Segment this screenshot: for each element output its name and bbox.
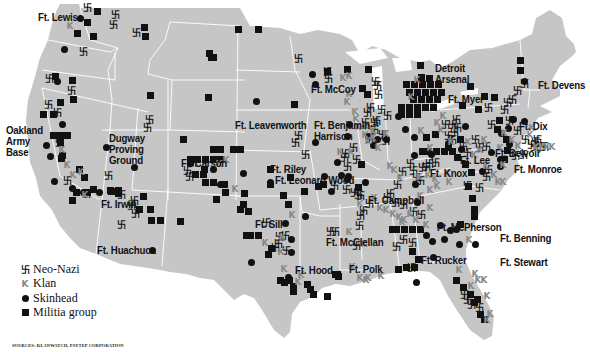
base-label: Ft. Stewart xyxy=(500,257,548,268)
militia-square-icon xyxy=(438,89,445,96)
militia-square-icon xyxy=(422,104,429,111)
militia-square-icon xyxy=(393,226,400,233)
neo-nazi-swastika-icon: 卐 xyxy=(294,55,303,64)
militia-square-icon xyxy=(210,146,217,153)
klan-k-icon: K xyxy=(78,168,85,177)
skinhead-circle-icon xyxy=(59,121,66,128)
base-label: Ft. Monroe xyxy=(514,164,562,175)
neo-nazi-swastika-icon: 卐 xyxy=(505,117,514,126)
base-label: Ft. McClellan xyxy=(326,237,383,248)
skinhead-circle-icon xyxy=(240,170,247,177)
neo-nazi-swastika-icon: 卐 xyxy=(406,160,415,169)
neo-nazi-swastika-icon: 卐 xyxy=(131,210,140,219)
neo-nazi-swastika-icon: 卐 xyxy=(374,91,383,100)
neo-nazi-swastika-icon: 卐 xyxy=(508,96,517,105)
base-label: Ft. Dix xyxy=(519,121,547,132)
base-label: Ft. Irwin xyxy=(101,199,137,210)
neo-nazi-swastika-icon: 卐 xyxy=(109,21,118,30)
klan-k-icon: K xyxy=(427,186,434,195)
militia-square-icon xyxy=(471,213,478,220)
klan-k-icon: K xyxy=(427,204,434,213)
base-label: Ft. McCoy xyxy=(311,84,356,95)
neo-nazi-swastika-icon: 卐 xyxy=(44,101,53,110)
militia-square-icon xyxy=(364,91,371,98)
legend-label: Klan xyxy=(33,276,56,291)
skinhead-circle-icon xyxy=(61,46,68,53)
militia-square-icon xyxy=(427,81,434,88)
klan-k-icon: K xyxy=(413,216,420,225)
neo-nazi-swastika-icon: 卐 xyxy=(392,243,401,252)
klan-k-icon: K xyxy=(397,174,404,183)
base-label: Detroit Arsenal xyxy=(435,63,469,85)
legend-label: Neo-Nazi xyxy=(33,262,80,277)
militia-square-icon xyxy=(255,26,262,33)
skinhead-circle-icon xyxy=(429,238,436,245)
militia-square-icon xyxy=(142,33,149,40)
neo-nazi-swastika-icon: 卐 xyxy=(355,222,364,231)
skinhead-circle-icon xyxy=(47,153,54,160)
militia-square-icon xyxy=(334,271,341,278)
base-label: Ft. Huachuca xyxy=(97,245,156,256)
klan-k-icon: K xyxy=(481,276,488,285)
base-label: Ft. Belvoir xyxy=(495,148,540,159)
klan-k-icon: K xyxy=(67,22,74,31)
skinhead-circle-icon xyxy=(253,98,260,105)
militia-square-icon xyxy=(202,179,209,186)
militia-square-icon xyxy=(324,293,331,300)
militia-square-icon xyxy=(469,195,476,202)
militia-square-icon xyxy=(108,188,115,195)
klan-k-icon: K xyxy=(448,138,455,147)
neo-nazi-swastika-icon: 卐 xyxy=(291,139,300,148)
klan-k-icon: K xyxy=(446,178,453,187)
militia-square-icon xyxy=(237,206,244,213)
militia-square-icon xyxy=(140,193,147,200)
klan-k-icon: K xyxy=(456,266,463,275)
militia-square-icon xyxy=(471,206,478,213)
neo-nazi-swastika-icon: 卐 xyxy=(482,173,491,182)
swastika-icon: 卐 xyxy=(20,263,30,276)
militia-square-icon xyxy=(395,266,402,273)
skinhead-circle-icon xyxy=(54,78,61,85)
klan-k-icon: K xyxy=(344,98,351,107)
neo-nazi-swastika-icon: 卐 xyxy=(372,117,381,126)
base-label: Ft. Devens xyxy=(538,80,585,91)
militia-square-icon xyxy=(434,96,441,103)
base-label: Oakland Army Base xyxy=(6,125,43,158)
klan-k-icon: K xyxy=(278,248,285,257)
neo-nazi-swastika-icon: 卐 xyxy=(475,184,484,193)
klan-k-icon: K xyxy=(289,211,296,220)
militia-square-icon xyxy=(148,217,155,224)
militia-square-icon xyxy=(468,169,475,176)
militia-square-icon xyxy=(426,96,433,103)
skinhead-circle-icon xyxy=(217,181,224,188)
klan-k-icon: K xyxy=(59,146,66,155)
militia-square-icon xyxy=(430,104,437,111)
militia-square-icon xyxy=(217,146,224,153)
klan-k-icon: K xyxy=(383,130,390,139)
neo-nazi-swastika-icon: 卐 xyxy=(53,109,62,118)
neo-nazi-swastika-icon: 卐 xyxy=(408,239,417,248)
skinhead-circle-icon xyxy=(302,213,309,220)
militia-square-icon xyxy=(141,24,148,31)
neo-nazi-swastika-icon: 卐 xyxy=(463,296,472,305)
skinhead-circle-icon xyxy=(69,185,76,192)
militia-square-icon xyxy=(230,146,237,153)
skinhead-circle-icon xyxy=(423,232,430,239)
klan-k-icon: K xyxy=(408,93,415,102)
neo-nazi-swastika-icon: 卐 xyxy=(132,29,141,38)
klan-k-icon: K xyxy=(414,76,421,85)
militia-square-icon xyxy=(222,189,229,196)
klan-k-icon: K xyxy=(501,129,508,138)
militia-square-icon xyxy=(301,188,308,195)
base-label: Ft. Myer xyxy=(448,94,484,105)
klan-k-icon: K xyxy=(346,72,353,81)
klan-k-icon: K xyxy=(465,138,472,147)
militia-square-icon xyxy=(414,111,421,118)
skinhead-circle-icon xyxy=(472,241,479,248)
skinhead-circle-icon xyxy=(402,126,409,133)
klan-k-icon: K xyxy=(423,221,430,230)
legend-item-skinhead: Skinhead xyxy=(20,291,97,306)
militia-square-icon xyxy=(453,277,460,284)
skinhead-circle-icon xyxy=(51,178,58,185)
militia-square-icon xyxy=(291,101,298,108)
